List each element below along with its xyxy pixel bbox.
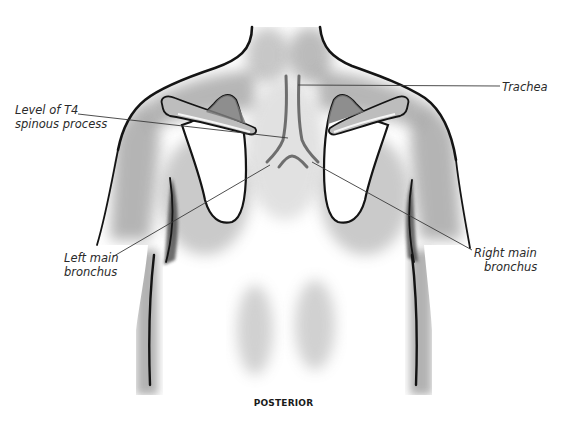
label-left-bronchus-line1: Left main <box>64 251 118 265</box>
label-left-main-bronchus: Left main bronchus <box>64 251 118 279</box>
label-t4-line1: Level of T4 <box>15 103 107 117</box>
label-right-bronchus-line1: Right main <box>474 246 537 260</box>
label-trachea: Trachea <box>502 80 548 94</box>
label-t4-spinous-process: Level of T4 spinous process <box>15 103 107 131</box>
label-right-bronchus-line2: bronchus <box>474 260 537 274</box>
label-trachea-line1: Trachea <box>502 80 548 94</box>
posterior-torso-illustration <box>0 0 567 427</box>
label-t4-line2: spinous process <box>15 117 107 131</box>
label-right-main-bronchus: Right main bronchus <box>474 246 537 274</box>
view-caption: POSTERIOR <box>0 398 567 408</box>
label-left-bronchus-line2: bronchus <box>64 265 118 279</box>
